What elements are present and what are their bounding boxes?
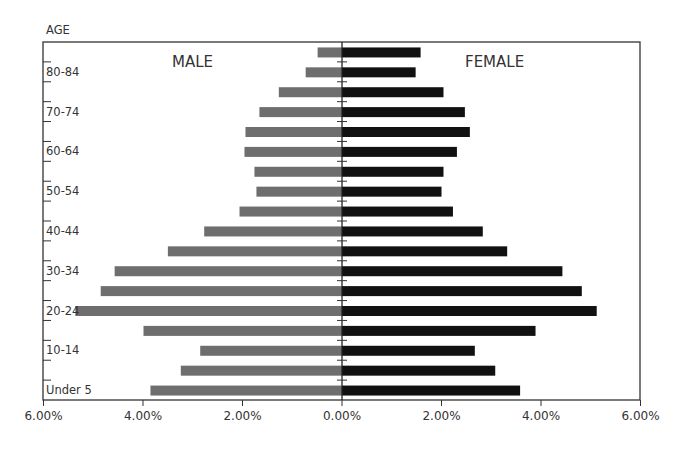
female-bar-40-44 (342, 226, 483, 236)
male-bar-under-5 (150, 386, 342, 396)
age-label-20-24: 20-24 (46, 304, 79, 318)
male-bar-35-39 (168, 246, 342, 256)
male-bar-5-9 (181, 366, 342, 376)
male-bar-70-74 (259, 107, 342, 117)
age-label-30-34: 30-34 (46, 264, 79, 278)
age-label-50-54: 50-54 (46, 184, 79, 198)
x-tick-label: 4.00% (124, 409, 162, 423)
male-bar-65-69 (245, 127, 342, 137)
male-bar-75-79 (279, 87, 342, 97)
female-bar-20-24 (342, 306, 597, 316)
male-bar-20-24 (75, 306, 342, 316)
male-bar-15-19 (143, 326, 342, 336)
male-bar-60-64 (244, 147, 342, 157)
male-bar-50-54 (256, 187, 342, 197)
male-bar-10-14 (200, 346, 342, 356)
age-label-80-84: 80-84 (46, 65, 79, 79)
male-bar-55-59 (254, 167, 342, 177)
x-tick-label: 0.00% (323, 409, 361, 423)
female-bar-65-69 (342, 127, 470, 137)
legend-male: MALE (172, 53, 213, 71)
female-bar-under-5 (342, 386, 520, 396)
age-label-40-44: 40-44 (46, 224, 79, 238)
female-bar-15-19 (342, 326, 536, 336)
female-bar-45-49 (342, 207, 453, 217)
female-bar-5-9 (342, 366, 495, 376)
female-bar-75-79 (342, 87, 443, 97)
female-bar-70-74 (342, 107, 465, 117)
male-bar-25-29 (101, 286, 342, 296)
x-tick-label: 4.00% (522, 409, 560, 423)
female-bar-30-34 (342, 266, 562, 276)
x-tick-label: 6.00% (24, 409, 62, 423)
female-bar-35-39 (342, 246, 507, 256)
population-pyramid-chart: 6.00%4.00%2.00%0.00%2.00%4.00%6.00%80-84… (0, 0, 689, 451)
male-bar-80-84 (306, 67, 342, 77)
male-bar-45-49 (240, 207, 342, 217)
x-tick-label: 2.00% (422, 409, 460, 423)
female-bar-10-14 (342, 346, 475, 356)
age-label-under-5: Under 5 (46, 383, 92, 397)
female-bar-60-64 (342, 147, 457, 157)
age-label-10-14: 10-14 (46, 343, 79, 357)
female-bar-55-59 (342, 167, 443, 177)
x-tick-label: 2.00% (223, 409, 261, 423)
female-bar-25-29 (342, 286, 582, 296)
x-tick-label: 6.00% (621, 409, 659, 423)
female-bar-80-84 (342, 67, 416, 77)
male-bar-40-44 (204, 226, 342, 236)
female-bar-85- (342, 47, 421, 57)
male-bar-30-34 (115, 266, 342, 276)
y-axis-title: AGE (46, 23, 70, 37)
male-bar-85- (318, 47, 342, 57)
age-label-60-64: 60-64 (46, 144, 79, 158)
age-label-70-74: 70-74 (46, 105, 79, 119)
legend-female: FEMALE (465, 53, 524, 71)
female-bar-50-54 (342, 187, 442, 197)
